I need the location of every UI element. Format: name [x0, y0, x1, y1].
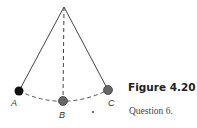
bob-a — [15, 87, 24, 96]
string-to-c — [64, 7, 108, 90]
label-a: A — [10, 98, 17, 108]
figure-caption: Question 6. — [129, 106, 173, 116]
stray-dot — [92, 111, 94, 113]
label-c: C — [108, 98, 115, 108]
bob-b — [59, 97, 68, 106]
string-to-a — [19, 7, 64, 91]
label-b: B — [59, 110, 65, 120]
bob-c — [104, 86, 113, 95]
figure-title: Figure 4.20 — [128, 81, 196, 93]
string-to-b-dashed — [63, 7, 64, 101]
